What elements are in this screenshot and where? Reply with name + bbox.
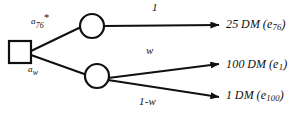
outcome-3-amount: 1: [226, 88, 232, 102]
outcome-label-3: 1 DM (e100): [226, 89, 284, 103]
outcome-label-1: 25 DM (e76): [226, 18, 286, 32]
decision-tree-diagram: a76* aw 1 w 1-w 25 DM (e76) 100 DM (e1) …: [0, 0, 301, 118]
action-label-top-subscript: 76: [36, 21, 44, 30]
outcome-1-currency: DM: [241, 17, 260, 31]
chance-node-top-circle: [80, 14, 104, 38]
outcome-2-amount: 100: [226, 57, 245, 71]
outcome-2-currency: DM: [247, 57, 266, 71]
outcome-2-event-subscript: 1: [279, 62, 284, 72]
outcome-3-event-subscript: 100: [266, 93, 280, 103]
branch-to-chance-top: [31, 27, 81, 51]
outcome-arrow-top: [104, 25, 219, 26]
probability-label-bottom: 1-w: [139, 96, 156, 107]
action-label-bottom-subscript: w: [33, 68, 38, 77]
outcome-label-2: 100 DM (e1): [226, 58, 287, 72]
decision-node-square: [9, 41, 31, 63]
action-label-top: a76*: [31, 13, 49, 30]
action-label-top-star-icon: *: [44, 12, 49, 23]
outcome-1-amount: 25: [226, 17, 238, 31]
probability-label-middle: w: [146, 45, 154, 56]
outcome-1-event-subscript: 76: [272, 22, 281, 32]
outcome-arrow-middle: [108, 64, 219, 78]
branch-to-chance-bottom: [31, 55, 87, 75]
probability-label-top: 1: [152, 2, 158, 13]
action-label-bottom: aw: [28, 64, 38, 77]
chance-node-bottom-circle: [85, 64, 109, 88]
outcome-arrow-bottom: [108, 80, 219, 97]
outcome-3-currency: DM: [235, 88, 254, 102]
